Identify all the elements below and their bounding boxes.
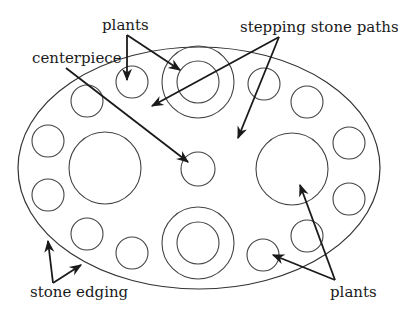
centerpiece-circle bbox=[181, 152, 215, 186]
small-plants bbox=[32, 66, 365, 271]
arrow-plants-top-2 bbox=[127, 35, 180, 70]
garden-diagram: plants stepping stone paths centerpiece … bbox=[0, 0, 398, 321]
arrow-edging-1 bbox=[48, 241, 53, 283]
large-plant-left bbox=[69, 132, 141, 204]
plant-circle bbox=[71, 218, 103, 250]
plant-circle bbox=[333, 127, 365, 159]
plant-circle bbox=[116, 237, 148, 269]
label-plants-bottom: plants bbox=[330, 283, 377, 301]
stepping-stone-bottom bbox=[162, 207, 234, 279]
label-plants-top: plants bbox=[102, 16, 149, 34]
arrows bbox=[48, 35, 335, 283]
plant-circle bbox=[333, 183, 365, 215]
arrow-centerpiece bbox=[66, 68, 188, 162]
arrow-edging-2 bbox=[53, 265, 81, 283]
plant-circle bbox=[32, 179, 64, 211]
plant-circle bbox=[291, 86, 323, 118]
label-stone-edging: stone edging bbox=[30, 283, 129, 301]
label-centerpiece: centerpiece bbox=[32, 49, 122, 67]
plant-circle bbox=[32, 125, 64, 157]
arrow-plants-bottom-2 bbox=[273, 255, 335, 280]
plant-circle bbox=[71, 85, 103, 117]
large-plant-right bbox=[256, 133, 328, 205]
plant-circle bbox=[116, 66, 148, 98]
arrow-stepping-2 bbox=[238, 37, 279, 138]
label-stepping-stone-paths: stepping stone paths bbox=[240, 18, 398, 36]
